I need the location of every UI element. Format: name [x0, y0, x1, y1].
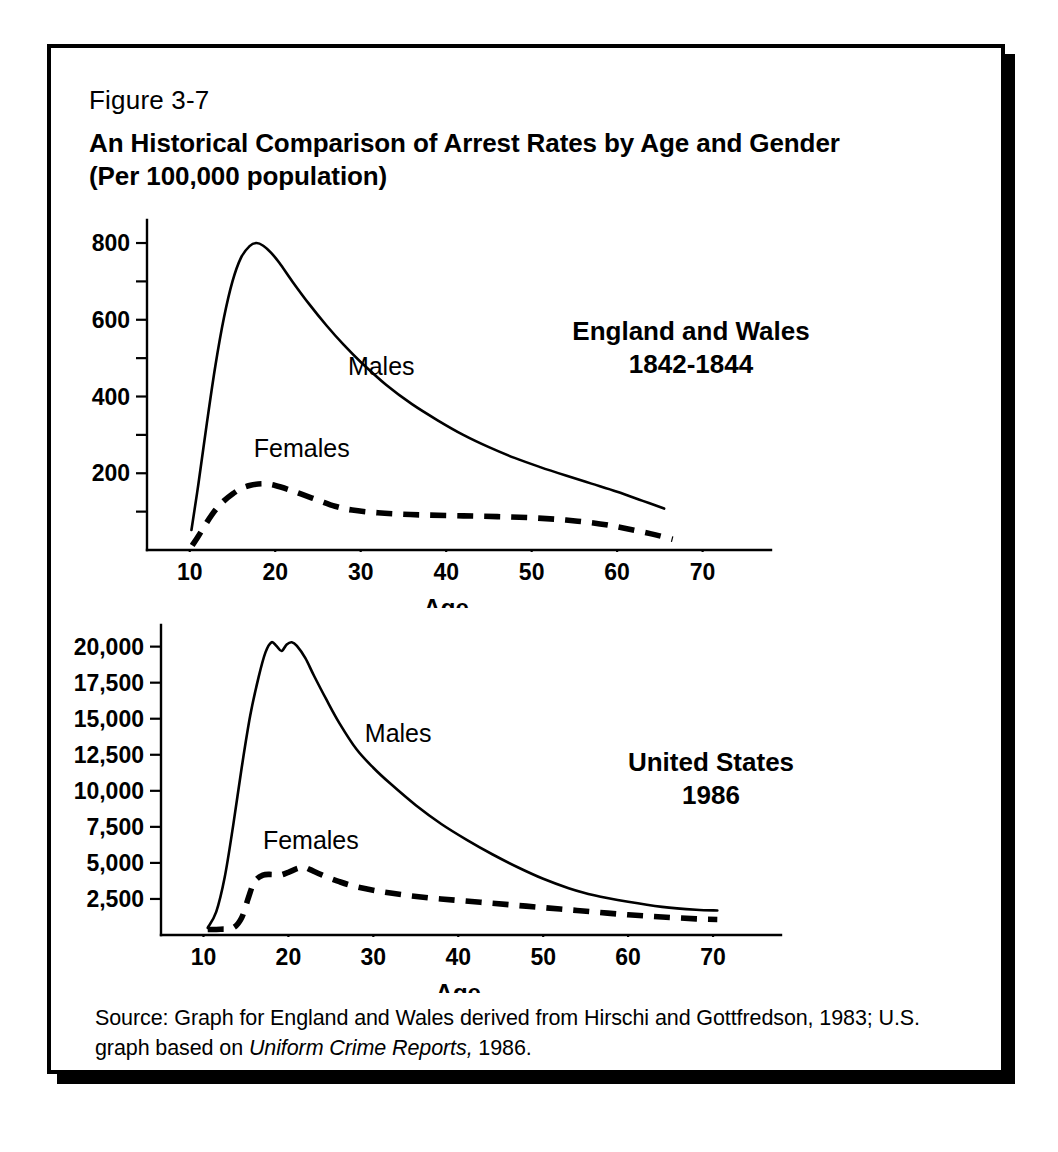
figure-header: Figure 3-7 An Historical Comparison of A… [89, 84, 969, 194]
source-note: Source: Graph for England and Wales deri… [95, 1004, 975, 1063]
x-tick-label: 10 [177, 559, 203, 585]
series-label-males: Males [365, 719, 432, 747]
x-tick-label: 30 [348, 559, 374, 585]
x-tick-label: 10 [191, 944, 217, 970]
figure-title-line2: (Per 100,000 population) [89, 160, 969, 194]
y-tick-label: 800 [92, 230, 130, 256]
series-line-females [208, 867, 718, 929]
y-tick-label: 15,000 [74, 706, 144, 732]
x-tick-label: 70 [690, 559, 716, 585]
series-line-males [208, 642, 718, 928]
y-tick-label: 200 [92, 460, 130, 486]
x-tick-label: 50 [530, 944, 556, 970]
series-label-females: Females [263, 826, 359, 854]
x-tick-label: 70 [700, 944, 726, 970]
y-tick-label: 2,500 [86, 886, 144, 912]
y-tick-label: 12,500 [74, 742, 144, 768]
region-subtitle: 1986 [682, 780, 740, 810]
series-line-females [192, 484, 672, 546]
y-tick-label: 5,000 [86, 850, 144, 876]
region-title: England and Wales [572, 316, 809, 346]
x-tick-label: 60 [615, 944, 641, 970]
y-tick-label: 600 [92, 307, 130, 333]
y-tick-label: 10,000 [74, 778, 144, 804]
x-tick-label: 60 [604, 559, 630, 585]
figure-number: Figure 3-7 [89, 84, 969, 117]
figure-title-line1: An Historical Comparison of Arrest Rates… [89, 128, 840, 158]
chart-england-and-wales: 20040060080010203040506070AgeMalesFemale… [51, 198, 1009, 608]
region-title: United States [628, 747, 794, 777]
source-text-suffix: 1986. [473, 1036, 532, 1060]
x-tick-label: 40 [433, 559, 459, 585]
x-tick-label: 30 [361, 944, 387, 970]
chart-svg-united-states: 2,5005,0007,50010,00012,50015,00017,5002… [51, 603, 1009, 993]
series-label-females: Females [254, 434, 350, 462]
y-tick-label: 17,500 [74, 670, 144, 696]
y-tick-label: 400 [92, 384, 130, 410]
y-tick-label: 20,000 [74, 634, 144, 660]
x-tick-label: 20 [276, 944, 302, 970]
x-axis-title: Age [436, 979, 481, 993]
figure-container: Figure 3-7 An Historical Comparison of A… [47, 44, 1005, 1074]
region-subtitle: 1842-1844 [629, 349, 754, 379]
x-tick-label: 40 [445, 944, 471, 970]
chart-svg-england-wales: 20040060080010203040506070AgeMalesFemale… [51, 198, 1009, 608]
series-label-males: Males [348, 352, 415, 380]
x-tick-label: 50 [519, 559, 545, 585]
figure-box: Figure 3-7 An Historical Comparison of A… [47, 44, 1005, 1074]
page-title: An Historical Comparison of Arrest Rates… [89, 127, 969, 195]
x-tick-label: 20 [262, 559, 288, 585]
source-text-italic: Uniform Crime Reports, [249, 1036, 473, 1060]
chart-united-states: 2,5005,0007,50010,00012,50015,00017,5002… [51, 603, 1009, 993]
y-tick-label: 7,500 [86, 814, 144, 840]
series-line-males [191, 243, 664, 530]
